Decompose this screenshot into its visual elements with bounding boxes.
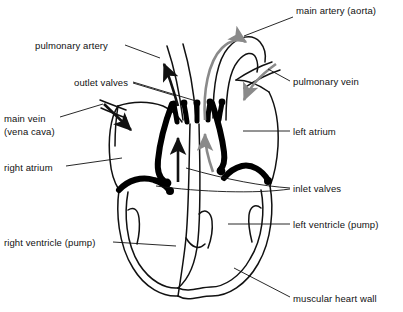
tricuspid-bulb-a bbox=[163, 179, 172, 188]
arrow-out-pulmonary-artery bbox=[164, 64, 178, 106]
tricuspid-leaflet-septal bbox=[158, 104, 172, 182]
pulmonary-valve-cusp-left bbox=[174, 105, 177, 122]
leader-outlet-valves-b bbox=[133, 83, 176, 96]
leader-right-atrium bbox=[66, 158, 122, 166]
label-vena-cava: (vena cava) bbox=[4, 126, 55, 137]
heart-diagram-figure: main artery (aorta) pulmonary artery out… bbox=[0, 0, 403, 312]
label-pulmonary-artery: pulmonary artery bbox=[35, 40, 108, 51]
pulmonary-valve-cusp-mid bbox=[184, 104, 187, 122]
leader-lines-group bbox=[60, 17, 293, 297]
left-ventricle-papillary-b bbox=[199, 211, 212, 248]
leader-outlet-valves-a bbox=[133, 82, 196, 101]
mitral-bulb-b bbox=[264, 177, 272, 185]
label-muscular-heart-wall: muscular heart wall bbox=[293, 293, 377, 304]
left-atrium-wall bbox=[269, 92, 278, 186]
label-left-ventricle: left ventricle (pump) bbox=[293, 219, 379, 230]
septum-papillary bbox=[186, 238, 205, 247]
leader-pulmonary-artery bbox=[125, 45, 160, 58]
valve-bulb-5 bbox=[219, 99, 226, 106]
mitral-bulb-a bbox=[217, 167, 226, 176]
label-left-atrium: left atrium bbox=[293, 126, 336, 137]
label-pulmonary-vein: pulmonary vein bbox=[293, 76, 359, 87]
tricuspid-leaflet-wall bbox=[119, 178, 169, 190]
label-outlet-valves: outlet valves bbox=[74, 77, 128, 88]
leader-main-vein bbox=[60, 104, 103, 117]
label-right-atrium: right atrium bbox=[4, 162, 53, 173]
mitral-leaflet-wall bbox=[224, 166, 268, 180]
leader-main-artery-aorta bbox=[244, 17, 293, 36]
label-inlet-valves: inlet valves bbox=[293, 183, 341, 194]
right-ventricle-papillary bbox=[128, 208, 139, 244]
valve-bulb-2 bbox=[181, 100, 188, 107]
valves-group bbox=[119, 99, 272, 195]
right-ventricle-inner-wall bbox=[126, 192, 178, 288]
outlet-valve-bulbs bbox=[171, 99, 226, 108]
septum-left-line bbox=[178, 124, 190, 296]
arrow-left-ventricle-upward bbox=[205, 134, 213, 172]
label-right-ventricle: right ventricle (pump) bbox=[4, 237, 95, 248]
label-main-artery-aorta: main artery (aorta) bbox=[296, 5, 376, 16]
label-main-vein: main vein bbox=[4, 113, 46, 124]
